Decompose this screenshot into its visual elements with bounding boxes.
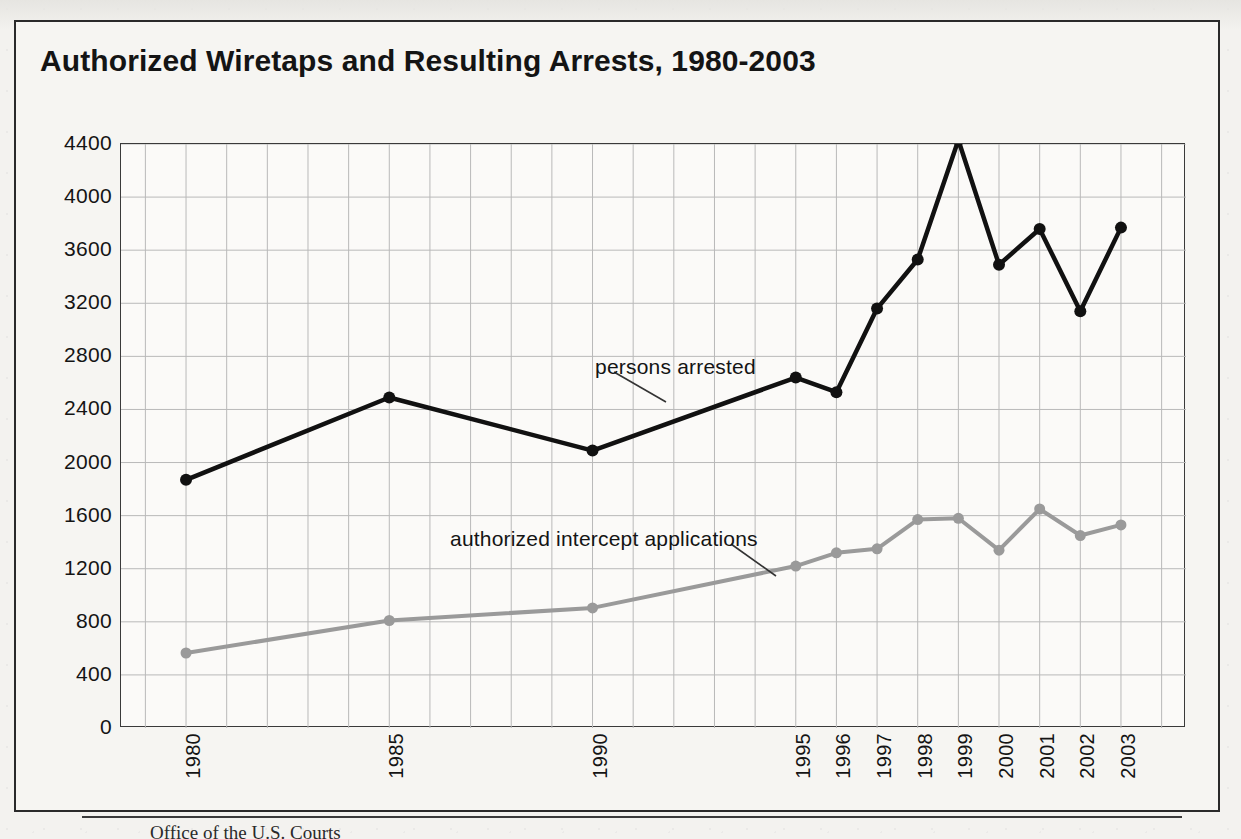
source-note: Office of the U.S. Courts bbox=[150, 822, 341, 839]
data-point bbox=[872, 543, 883, 554]
annotation-persons-arrested: persons arrested bbox=[595, 355, 756, 379]
page-title: Authorized Wiretaps and Resulting Arrest… bbox=[40, 44, 816, 78]
x-tick-label: 1997 bbox=[873, 733, 896, 779]
x-tick-label: 1998 bbox=[913, 733, 936, 779]
y-tick-label: 2800 bbox=[40, 343, 112, 367]
data-point bbox=[871, 303, 883, 315]
x-tick-label: 2002 bbox=[1076, 733, 1099, 779]
x-tick-label: 1980 bbox=[182, 733, 205, 779]
plot-area bbox=[120, 143, 1185, 727]
data-point bbox=[790, 372, 802, 384]
data-point bbox=[587, 602, 598, 613]
x-tick-label: 1996 bbox=[832, 733, 855, 779]
x-tick-label: 1995 bbox=[791, 733, 814, 779]
data-point bbox=[993, 259, 1005, 271]
x-tick-label: 1990 bbox=[588, 733, 611, 779]
chart-canvas bbox=[121, 144, 1186, 728]
figure-page: Authorized Wiretaps and Resulting Arrest… bbox=[0, 0, 1241, 839]
data-point bbox=[1115, 222, 1127, 234]
x-tick-label: 1985 bbox=[385, 733, 408, 779]
data-point bbox=[912, 514, 923, 525]
data-point bbox=[1074, 305, 1086, 317]
data-point bbox=[790, 561, 801, 572]
annotation-authorized-intercept-applications: authorized intercept applications bbox=[450, 527, 758, 551]
y-tick-label: 2000 bbox=[40, 450, 112, 474]
data-point bbox=[180, 474, 192, 486]
y-tick-label: 1200 bbox=[40, 556, 112, 580]
x-tick-label: 2001 bbox=[1035, 733, 1058, 779]
data-point bbox=[181, 648, 192, 659]
data-point bbox=[953, 513, 964, 524]
data-point bbox=[1075, 530, 1086, 541]
series-lines bbox=[186, 144, 1121, 653]
y-tick-label: 400 bbox=[40, 662, 112, 686]
data-point bbox=[1034, 504, 1045, 515]
series-line-persons-arrested bbox=[186, 144, 1121, 480]
y-tick-label: 4000 bbox=[40, 184, 112, 208]
data-point bbox=[912, 253, 924, 265]
grid-lines bbox=[121, 144, 1186, 728]
y-axis: 0400800120016002000240028003200360040004… bbox=[36, 143, 112, 727]
data-point bbox=[1115, 519, 1126, 530]
data-point bbox=[1034, 223, 1046, 235]
data-point bbox=[830, 386, 842, 398]
data-point bbox=[587, 445, 599, 457]
y-tick-label: 4400 bbox=[40, 131, 112, 155]
footer-divider bbox=[82, 816, 1182, 818]
y-tick-label: 2400 bbox=[40, 396, 112, 420]
data-point bbox=[383, 392, 395, 404]
data-point bbox=[384, 615, 395, 626]
y-tick-label: 1600 bbox=[40, 503, 112, 527]
x-tick-label: 2003 bbox=[1116, 733, 1139, 779]
x-axis: 1980198519901995199619971998199920002001… bbox=[120, 733, 1185, 811]
x-tick-label: 2000 bbox=[995, 733, 1018, 779]
y-tick-label: 800 bbox=[40, 609, 112, 633]
data-point bbox=[994, 545, 1005, 556]
y-tick-label: 3600 bbox=[40, 237, 112, 261]
y-tick-label: 0 bbox=[40, 715, 112, 739]
y-tick-label: 3200 bbox=[40, 290, 112, 314]
data-point bbox=[831, 547, 842, 558]
x-tick-label: 1999 bbox=[954, 733, 977, 779]
